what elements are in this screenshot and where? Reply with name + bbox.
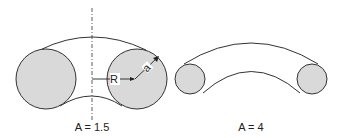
torus-a4: A = 4	[175, 43, 327, 133]
inner-arc	[203, 72, 300, 94]
torus-a1-5: R a A = 1.5	[16, 8, 167, 133]
outer-arc	[184, 43, 318, 64]
left-cross-section	[175, 64, 205, 94]
left-cross-section	[16, 49, 76, 109]
torus-diagram: R a A = 1.5 A = 4	[0, 0, 344, 138]
aspect-label-right: A = 4	[238, 121, 263, 133]
outer-arc	[40, 37, 146, 50]
aspect-label-left: A = 1.5	[75, 121, 110, 133]
right-cross-section	[297, 64, 327, 94]
major-radius-label: R	[110, 73, 118, 85]
